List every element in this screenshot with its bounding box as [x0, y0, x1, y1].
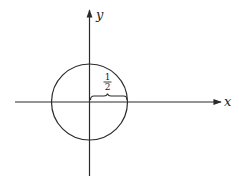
diagram-canvas: 1 2 x y: [0, 0, 239, 184]
radius-label-numerator: 1: [105, 72, 111, 82]
x-axis-label: x: [224, 94, 232, 109]
radius-brace: [91, 94, 128, 101]
radius-label-denominator: 2: [105, 82, 111, 92]
y-axis-label: y: [95, 7, 104, 22]
